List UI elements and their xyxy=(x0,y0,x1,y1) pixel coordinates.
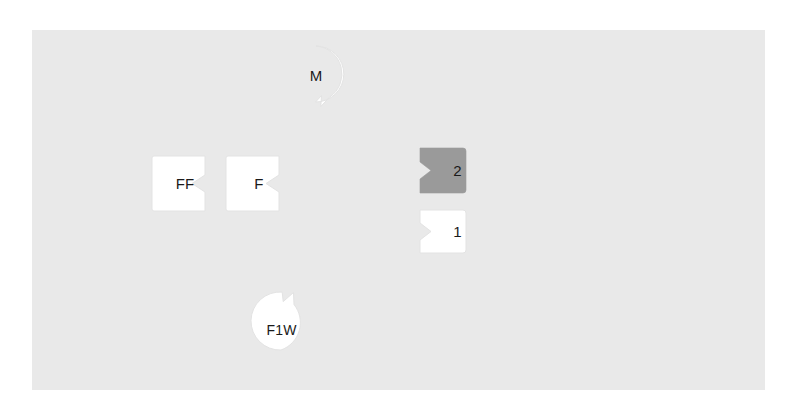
node-ff-shape xyxy=(151,155,219,212)
node-m-shape xyxy=(286,44,346,107)
node-box-2-shape xyxy=(420,147,467,194)
node-m[interactable]: M xyxy=(286,44,346,107)
node-f-shape xyxy=(225,155,293,212)
node-f1w-shape xyxy=(249,289,314,353)
node-box-2[interactable]: 2 xyxy=(420,147,467,194)
node-f1w[interactable]: F1W xyxy=(249,289,314,353)
node-ff[interactable]: FF xyxy=(151,155,219,212)
node-box-1[interactable]: 1 xyxy=(420,209,467,254)
node-f[interactable]: F xyxy=(225,155,293,212)
diagram-panel xyxy=(32,30,765,390)
node-box-1-shape xyxy=(420,209,467,254)
diagram-canvas: M FF F 2 1 F1W xyxy=(0,0,798,417)
